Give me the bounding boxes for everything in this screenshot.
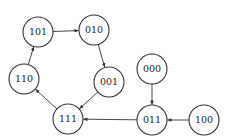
state-diagram: 101010001110111000011100 <box>0 0 230 140</box>
edge-101-to-010 <box>53 31 79 32</box>
state-node-110: 110 <box>9 64 39 94</box>
nodes-layer: 101010001110111000011100 <box>9 15 219 135</box>
node-label: 000 <box>143 63 161 74</box>
node-label: 101 <box>29 26 47 37</box>
state-node-000: 000 <box>137 54 167 84</box>
edge-011-to-111 <box>84 119 138 120</box>
edge-001-to-111 <box>80 92 98 109</box>
edge-111-to-110 <box>36 89 57 109</box>
edge-110-to-101 <box>28 47 33 65</box>
state-node-101: 101 <box>23 17 53 47</box>
node-label: 001 <box>100 76 118 87</box>
state-node-111: 111 <box>53 104 83 134</box>
edge-010-to-001 <box>98 44 105 67</box>
state-node-001: 001 <box>94 67 124 97</box>
state-node-010: 010 <box>79 15 109 45</box>
node-label: 110 <box>15 73 33 84</box>
state-node-100: 100 <box>189 105 219 135</box>
node-label: 011 <box>143 114 161 125</box>
node-label: 111 <box>59 113 77 124</box>
node-label: 010 <box>85 24 103 35</box>
node-label: 100 <box>195 114 213 125</box>
state-node-011: 011 <box>137 105 167 135</box>
